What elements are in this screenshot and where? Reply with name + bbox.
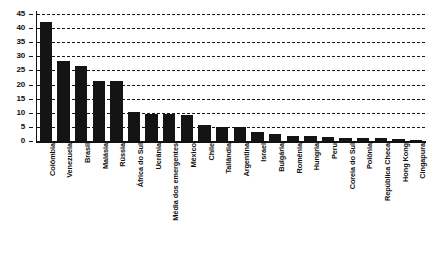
x-category-label: Malásia [102,143,109,169]
x-category-label: Tailândia [225,143,232,174]
bar [269,134,281,141]
bar [181,115,193,141]
x-category-label: Rússia [119,143,126,167]
bar [145,114,157,141]
x-category-label: África do Sul [137,143,144,187]
x-category-label: Peru [331,143,338,159]
bar [93,81,105,141]
y-tick-mark [29,127,33,128]
x-category-label: Hong Kong [402,143,409,182]
y-tick-label: 45 [17,10,26,18]
x-category-label: Romênia [296,143,303,174]
x-category-label: Ucrânia [155,143,162,169]
y-tick-mark [29,141,33,142]
x-category-label: Argentina [243,143,250,177]
y-tick-label: 5 [21,123,25,131]
y-tick-mark [29,56,33,57]
x-axis-category-labels: ColômbiaVenezuelaBrasilMalásiaRússiaÁfri… [37,143,425,254]
bar [110,81,122,141]
y-tick-label: 30 [17,52,26,60]
x-category-label: Bulgária [278,143,285,172]
y-tick-mark [29,28,33,29]
y-tick-label: 40 [17,24,26,32]
x-category-label: Brasil [84,143,91,163]
y-tick-label: 25 [17,66,26,74]
y-tick-mark [29,99,33,100]
y-tick-mark [29,70,33,71]
bar [198,125,210,141]
bar-series [37,14,425,141]
x-category-label: Hungria [313,143,320,170]
bar-chart-figure: 051015202530354045 ColômbiaVenezuelaBras… [0,0,445,254]
plot-area [37,14,425,141]
y-tick-mark [29,85,33,86]
bar [128,112,140,141]
x-category-label: Polônia [366,143,373,169]
bar [75,66,87,141]
y-tick-mark [29,42,33,43]
bar [234,127,246,141]
x-category-label: Chile [208,143,215,161]
x-category-label: México [190,143,197,167]
bar [216,127,228,141]
x-category-label: Média dos emergentes [172,143,179,221]
x-category-label: Israel [260,143,267,162]
x-category-label: Coreia do Sul [349,143,356,189]
y-tick-label: 10 [17,109,26,117]
bar [57,61,69,141]
x-category-label: Cingapura [419,143,426,179]
y-tick-label: 15 [17,95,26,103]
x-category-label: Colômbia [49,143,56,176]
y-axis: 051015202530354045 [0,0,33,254]
y-tick-mark [29,14,33,15]
y-tick-label: 0 [21,137,25,145]
bar [251,132,263,141]
x-category-label: República Checa [384,143,391,201]
bar [40,22,52,141]
y-tick-label: 20 [17,81,26,89]
y-tick-mark [29,113,33,114]
bar [163,114,175,141]
x-category-label: Venezuela [66,143,73,178]
y-tick-label: 35 [17,38,26,46]
